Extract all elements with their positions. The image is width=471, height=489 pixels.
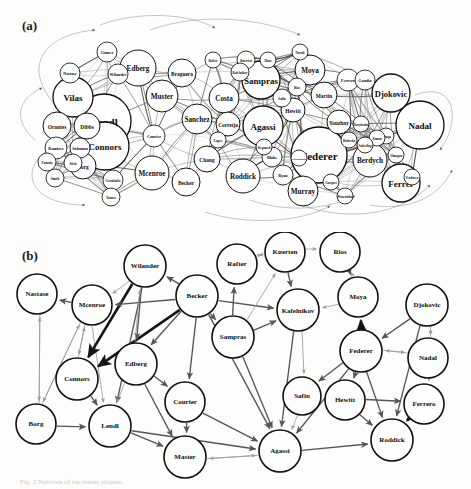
- node-stich: Stich: [64, 154, 82, 172]
- node-ferrero: Ferrero: [404, 384, 444, 424]
- edge-becker-to-wilander: [167, 277, 179, 284]
- node-gomez: Gomez: [97, 42, 117, 62]
- node-moya: Moya: [338, 277, 378, 317]
- edge-becker-to-courier: [189, 318, 196, 379]
- edge-federer-to-roddick: [367, 372, 383, 417]
- node-courier: Courier: [143, 125, 165, 147]
- edge-rios-to-moya: [349, 271, 350, 275]
- edge-kuerten-to-rafter: [259, 254, 264, 255]
- node-lopez: Lopez: [210, 132, 226, 148]
- node-wilander: Wilander: [124, 245, 166, 287]
- node-youzhny: Youzhny: [327, 110, 351, 134]
- edge-connors-to-mcenroe: [78, 327, 84, 356]
- edge-moya-to-kafelnikov: [323, 304, 339, 307]
- node-stepanek: Stepanek: [256, 139, 272, 155]
- edge-sampras-to-rafter: [233, 287, 235, 315]
- node-martin: Martin: [311, 82, 337, 108]
- node-vilas: Vilas: [53, 77, 93, 117]
- node-nadal: Nadal: [408, 338, 448, 378]
- node-edberg: Edberg: [115, 343, 157, 385]
- node-dibbs: Dibbs: [74, 113, 100, 139]
- node-gaudio: Gaudio: [355, 70, 375, 90]
- edge-edberg-to-courier: [154, 376, 167, 386]
- node-gasquet: Gasquet: [323, 174, 339, 190]
- node-roddick: Roddick: [371, 419, 413, 461]
- edge-moya-to-rios: [352, 273, 353, 277]
- node-djokovic: Djokovic: [372, 74, 410, 112]
- node-almagro: Almagro: [388, 147, 404, 163]
- figure-caption: Fig. 2 Network of top tennis players.: [20, 478, 460, 486]
- node-soderling: Soderling: [357, 137, 373, 153]
- node-safin: Safin: [283, 377, 321, 415]
- edge-kuerten-to-kafelnikov: [288, 273, 291, 287]
- node-kuerten: Kuerten: [265, 232, 305, 272]
- node-connors: Connors: [56, 358, 98, 400]
- node-ryan: Ryan: [273, 165, 293, 185]
- edge-federer-to-hewitt: [354, 372, 356, 378]
- edge-becker-to-kafelnikov: [219, 301, 274, 309]
- panel-a-network-graph: LendlFedererConnorsNadalVilasAgassiSampr…: [0, 0, 471, 232]
- node-becker: Becker: [172, 168, 200, 196]
- node-haas: Haas: [260, 52, 276, 68]
- panel-b-label: (b): [22, 248, 38, 264]
- edge-kafelnikov-to-safin: [302, 332, 304, 374]
- node-becker: Becker: [176, 275, 218, 317]
- node-verdasco: Verdasco: [404, 169, 420, 185]
- edge-safin-to-agassi: [292, 416, 297, 430]
- edge-borg-to-lendl: [57, 426, 86, 427]
- edge-hewitt-to-ferrero: [366, 399, 401, 401]
- edge-djokovic-to-federer: [382, 319, 410, 338]
- node-courier: Courier: [165, 382, 205, 422]
- edge-sampras-to-kafelnikov: [254, 321, 276, 330]
- edge-nadal-to-federer: [386, 351, 408, 353]
- node-davydenko: Davydenko: [353, 116, 369, 132]
- panel-a-label: (a): [22, 18, 37, 34]
- node-hewitt: Hewitt: [325, 380, 365, 420]
- edge-sampras-to-kuerten: [247, 274, 275, 320]
- panel-a-nodes: LendlFedererConnorsNadalVilasAgassiSampr…: [38, 42, 444, 206]
- node-nastase: Nastase: [60, 63, 80, 83]
- panel-b: NastaseMcenroeWilanderBeckerRafterKuerte…: [0, 232, 471, 489]
- edge-sampras-to-agassi: [243, 357, 272, 428]
- edge-courier-to-agassi: [203, 413, 258, 441]
- node-rafter: Rafter: [217, 244, 257, 284]
- node-rios: Rios: [288, 78, 306, 96]
- edge-master-to-agassi: [207, 456, 256, 459]
- node-tanner: Tanner: [102, 188, 120, 206]
- node-nastase: Nastase: [17, 274, 57, 314]
- edge-federer-to-safin: [319, 363, 343, 381]
- node-costa: Costa: [209, 83, 239, 113]
- edge-agassi-to-roddick: [302, 444, 368, 450]
- node-djokovic: Djokovic: [406, 284, 448, 326]
- node-roddick: Roddick: [226, 159, 260, 193]
- node-mcenroe: Mcenroe: [72, 285, 112, 325]
- node-gerulaitis: Gerulaitis: [103, 170, 123, 190]
- node-murray: Murray: [288, 176, 318, 206]
- node-nalbandian: Nalbandian: [291, 150, 307, 166]
- node-lendl: Lendl: [89, 405, 131, 447]
- node-mcenroe: Mcenroe: [135, 156, 169, 190]
- node-panatta: Panatta: [38, 153, 56, 171]
- panel-b-network-graph: NastaseMcenroeWilanderBeckerRafterKuerte…: [0, 232, 471, 489]
- node-federer: Federer: [340, 330, 382, 372]
- node-kafelnikov: Kafelnikov: [231, 63, 249, 81]
- node-braguera: Braguera: [168, 59, 196, 87]
- node-wawrinka: Wawrinka: [337, 188, 353, 204]
- edge-connors-to-lendl: [91, 396, 97, 405]
- node-kafelnikov: Kafelnikov: [277, 289, 319, 331]
- node-novak: Novak: [292, 44, 308, 60]
- panel-b-nodes: NastaseMcenroeWilanderBeckerRafterKuerte…: [16, 232, 448, 478]
- node-safin: Safin: [273, 89, 291, 107]
- node-robredo: Robredo: [341, 132, 357, 148]
- figure-container: LendlFedererConnorsNadalVilasAgassiSampr…: [0, 0, 471, 489]
- node-wilander: Wilander: [108, 64, 128, 84]
- node-orantes: Orantes: [43, 112, 71, 140]
- node-sampras: Sampras: [212, 316, 254, 358]
- node-master: Master: [164, 436, 206, 478]
- edge-becker-to-mcenroe: [116, 299, 176, 304]
- node-smith: Smith: [46, 169, 64, 187]
- panel-a: LendlFedererConnorsNadalVilasAgassiSampr…: [0, 0, 471, 232]
- node-chang: Chang: [194, 146, 220, 172]
- node-rafter: Rafter: [205, 52, 221, 68]
- node-sanchez: Sanchez: [182, 104, 212, 134]
